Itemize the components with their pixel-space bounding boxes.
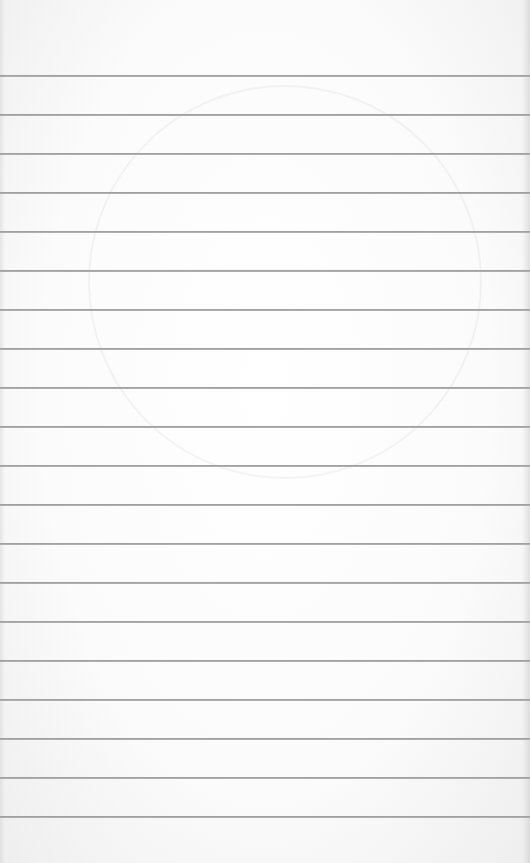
ruled-line (0, 621, 530, 623)
ruled-line (0, 738, 530, 740)
ruled-line (0, 660, 530, 662)
bleed-through-circle (88, 85, 482, 479)
ruled-line (0, 192, 530, 194)
ruled-line (0, 348, 530, 350)
ruled-line (0, 777, 530, 779)
ruled-line (0, 699, 530, 701)
ruled-line (0, 582, 530, 584)
lined-paper (0, 0, 530, 863)
left-edge-shadow (0, 0, 5, 863)
ruled-line (0, 504, 530, 506)
ruled-line (0, 153, 530, 155)
ruled-line (0, 231, 530, 233)
ruled-line (0, 387, 530, 389)
ruled-line (0, 270, 530, 272)
ruled-line (0, 465, 530, 467)
ruled-line (0, 426, 530, 428)
ruled-line (0, 309, 530, 311)
ruled-line (0, 543, 530, 545)
ruled-line (0, 816, 530, 818)
ruled-line (0, 114, 530, 116)
right-edge-shadow (522, 0, 530, 863)
ruled-line (0, 75, 530, 77)
